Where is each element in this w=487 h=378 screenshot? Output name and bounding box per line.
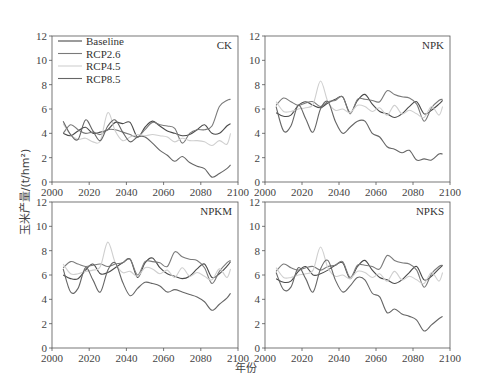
y-tick-label: 12 bbox=[36, 196, 47, 208]
panel-ck: 024681012200020202040206020802100CKBasel… bbox=[36, 30, 250, 198]
plot-frame bbox=[265, 202, 450, 348]
plot-frame bbox=[265, 36, 450, 182]
legend-label: RCP4.5 bbox=[86, 60, 121, 72]
panel-title: NPKS bbox=[416, 205, 444, 217]
x-tick-label: 2060 bbox=[153, 352, 176, 364]
chart-figure: 024681012200020202040206020802100CKBasel… bbox=[0, 0, 487, 378]
x-tick-label: 2080 bbox=[190, 186, 213, 198]
x-axis-label: 年份 bbox=[235, 361, 257, 375]
x-tick-label: 2100 bbox=[439, 186, 462, 198]
y-tick-label: 2 bbox=[42, 152, 48, 164]
y-tick-label: 4 bbox=[255, 127, 261, 139]
x-tick-label: 2100 bbox=[227, 186, 250, 198]
legend-label: Baseline bbox=[86, 35, 124, 47]
x-tick-label: 2100 bbox=[439, 352, 462, 364]
legend-label: RCP8.5 bbox=[86, 73, 121, 85]
panel-title: NPK bbox=[422, 39, 444, 51]
x-tick-label: 2020 bbox=[291, 352, 314, 364]
x-tick-label: 2060 bbox=[365, 352, 388, 364]
y-tick-label: 8 bbox=[42, 245, 48, 257]
y-tick-label: 8 bbox=[255, 79, 261, 91]
x-tick-label: 2080 bbox=[402, 352, 425, 364]
y-tick-label: 10 bbox=[36, 54, 48, 66]
legend: BaselineRCP2.6RCP4.5RCP8.5 bbox=[58, 35, 124, 85]
x-tick-label: 2040 bbox=[115, 186, 138, 198]
y-tick-label: 4 bbox=[42, 293, 48, 305]
y-tick-label: 12 bbox=[249, 196, 260, 208]
y-tick-label: 6 bbox=[255, 103, 261, 115]
y-tick-label: 6 bbox=[255, 269, 261, 281]
y-tick-label: 10 bbox=[249, 220, 261, 232]
y-tick-label: 8 bbox=[42, 79, 48, 91]
y-tick-label: 4 bbox=[42, 127, 48, 139]
series-line-rcp26 bbox=[276, 91, 443, 122]
series-line-rcp45 bbox=[276, 81, 443, 118]
y-axis-label: 玉米产量/(t/hm²) bbox=[18, 149, 32, 235]
y-tick-label: 6 bbox=[42, 103, 48, 115]
x-tick-label: 2020 bbox=[78, 186, 101, 198]
x-tick-label: 2040 bbox=[328, 352, 351, 364]
y-tick-label: 2 bbox=[255, 318, 261, 330]
x-tick-label: 2020 bbox=[78, 352, 101, 364]
x-tick-label: 2000 bbox=[41, 352, 64, 364]
x-tick-label: 2060 bbox=[365, 186, 388, 198]
y-tick-label: 6 bbox=[42, 269, 48, 281]
panel-npk: 024681012200020202040206020802100NPK bbox=[249, 30, 462, 198]
y-tick-label: 12 bbox=[249, 30, 260, 42]
x-tick-label: 2020 bbox=[291, 186, 314, 198]
x-tick-label: 2060 bbox=[153, 186, 176, 198]
series-line-rcp45 bbox=[276, 247, 443, 284]
panel-title: CK bbox=[217, 39, 232, 51]
y-tick-label: 4 bbox=[255, 293, 261, 305]
x-tick-label: 2080 bbox=[190, 352, 213, 364]
x-tick-label: 2000 bbox=[254, 352, 277, 364]
x-tick-label: 2080 bbox=[402, 186, 425, 198]
panel-title: NPKM bbox=[200, 205, 232, 217]
y-tick-label: 2 bbox=[42, 318, 48, 330]
panel-npkm: 024681012200020202040206020802100NPKM bbox=[36, 196, 250, 364]
y-tick-label: 8 bbox=[255, 245, 261, 257]
x-tick-label: 2040 bbox=[328, 186, 351, 198]
y-tick-label: 10 bbox=[36, 220, 48, 232]
y-tick-label: 12 bbox=[36, 30, 47, 42]
legend-label: RCP2.6 bbox=[86, 48, 121, 60]
y-tick-label: 10 bbox=[249, 54, 261, 66]
plot-frame bbox=[52, 36, 238, 182]
series-line-rcp85 bbox=[276, 101, 443, 160]
x-tick-label: 2040 bbox=[115, 352, 138, 364]
panel-npks: 024681012200020202040206020802100NPKS bbox=[249, 196, 462, 364]
y-tick-label: 2 bbox=[255, 152, 261, 164]
